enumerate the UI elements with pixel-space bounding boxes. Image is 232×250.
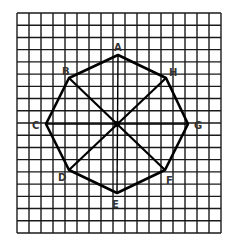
vertex-label-a: A (114, 42, 122, 53)
center-point (114, 121, 120, 127)
vertex-label-h: H (169, 67, 177, 78)
vertex-label-b: B (62, 66, 70, 77)
vertex-label-f: F (166, 175, 173, 186)
vertex-label-c: C (32, 120, 39, 131)
vertex-label-d: D (58, 172, 66, 183)
vertex-label-e: E (112, 199, 119, 210)
vertex-label-g: G (194, 120, 202, 131)
octagon-grid-diagram: AHGFEDCB (0, 0, 232, 250)
